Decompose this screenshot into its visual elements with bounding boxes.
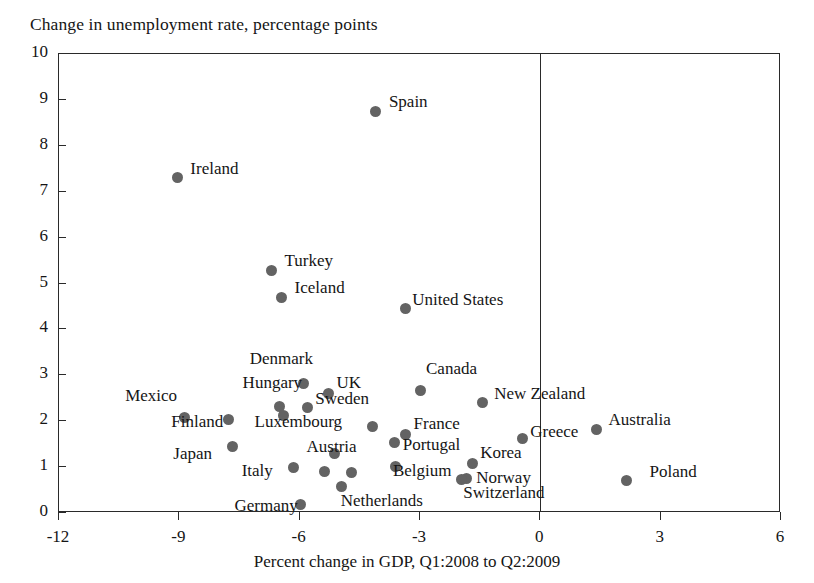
data-point-marker[interactable]	[346, 467, 357, 478]
data-point-marker[interactable]	[415, 385, 426, 396]
data-point-marker[interactable]	[276, 292, 287, 303]
data-point-label: Iceland	[295, 278, 345, 298]
data-point-label: Canada	[426, 359, 477, 379]
data-point-label: Korea	[480, 443, 522, 463]
y-axis-tick-mark	[58, 420, 66, 421]
data-point-marker[interactable]	[266, 265, 277, 276]
data-point-marker[interactable]	[591, 424, 602, 435]
data-point-marker[interactable]	[319, 466, 330, 477]
x-axis-tick-label: 3	[630, 527, 690, 547]
y-axis-tick-label: 10	[8, 42, 48, 62]
y-axis-tick-label: 2	[8, 409, 48, 429]
data-point-label: New Zealand	[494, 384, 585, 404]
data-point-marker[interactable]	[172, 172, 183, 183]
x-axis-tick-label: -3	[389, 527, 449, 547]
data-point-marker[interactable]	[477, 397, 488, 408]
data-point-label: Netherlands	[341, 491, 423, 511]
x-axis-tick-mark	[780, 512, 781, 520]
y-axis-tick-label: 8	[8, 134, 48, 154]
data-point-label: Poland	[650, 462, 697, 482]
x-axis-title: Percent change in GDP, Q1:2008 to Q2:200…	[0, 552, 814, 572]
data-point-marker[interactable]	[621, 475, 632, 486]
data-point-label: Mexico	[125, 386, 177, 406]
data-point-label: Luxembourg	[255, 412, 343, 432]
data-point-marker[interactable]	[367, 421, 378, 432]
y-axis-tick-label: 1	[8, 455, 48, 475]
data-point-label: Japan	[173, 444, 212, 464]
data-point-marker[interactable]	[223, 414, 234, 425]
data-point-label: Australia	[608, 410, 670, 430]
data-point-marker[interactable]	[227, 441, 238, 452]
data-point-label: Germany	[234, 496, 297, 516]
y-axis-tick-mark	[58, 512, 66, 513]
data-point-label: Portugal	[403, 435, 461, 455]
data-point-marker[interactable]	[370, 106, 381, 117]
y-axis-tick-label: 0	[8, 501, 48, 521]
y-axis-tick-mark	[58, 53, 66, 54]
y-axis-tick-mark	[58, 328, 66, 329]
data-point-label: United States	[412, 290, 503, 310]
x-axis-tick-mark	[58, 512, 59, 520]
data-point-label: Italy	[242, 461, 273, 481]
y-axis-tick-mark	[58, 374, 66, 375]
data-point-label: Austria	[307, 437, 357, 457]
data-point-marker[interactable]	[288, 462, 299, 473]
x-axis-tick-label: -9	[148, 527, 208, 547]
y-axis-tick-label: 9	[8, 88, 48, 108]
data-point-label: Ireland	[190, 159, 238, 179]
y-axis-tick-label: 7	[8, 180, 48, 200]
scatter-chart-figure: Change in unemployment rate, percentage …	[0, 0, 814, 583]
y-axis-tick-label: 5	[8, 272, 48, 292]
data-point-label: Spain	[389, 92, 428, 112]
y-axis-tick-label: 6	[8, 226, 48, 246]
x-axis-tick-label: 0	[509, 527, 569, 547]
data-point-marker[interactable]	[400, 303, 411, 314]
y-axis-tick-mark	[58, 466, 66, 467]
x-axis-tick-mark	[299, 512, 300, 520]
y-axis-tick-mark	[58, 237, 66, 238]
x-axis-tick-mark	[419, 512, 420, 520]
chart-title: Change in unemployment rate, percentage …	[30, 14, 378, 35]
y-axis-tick-mark	[58, 99, 66, 100]
data-point-label: France	[414, 414, 460, 434]
data-point-label: Finland	[171, 412, 223, 432]
x-axis-tick-mark	[178, 512, 179, 520]
data-point-label: Switzerland	[463, 483, 544, 503]
y-axis-tick-mark	[58, 145, 66, 146]
x-axis-tick-label: -12	[28, 527, 88, 547]
x-axis-tick-label: 6	[750, 527, 810, 547]
y-axis-tick-label: 3	[8, 363, 48, 383]
data-point-label: Greece	[530, 422, 578, 442]
y-axis-tick-mark	[58, 191, 66, 192]
data-point-marker[interactable]	[389, 437, 400, 448]
data-point-marker[interactable]	[517, 433, 528, 444]
data-point-label: Belgium	[393, 461, 452, 481]
y-axis-tick-mark	[58, 283, 66, 284]
data-point-label: Hungary	[243, 373, 302, 393]
x-axis-tick-mark	[539, 512, 540, 520]
y-axis-tick-label: 4	[8, 317, 48, 337]
zero-reference-line	[540, 54, 541, 511]
data-point-label: Denmark	[250, 349, 313, 369]
data-point-label: Turkey	[285, 251, 334, 271]
x-axis-tick-mark	[660, 512, 661, 520]
data-point-marker[interactable]	[336, 481, 347, 492]
data-point-label: Sweden	[315, 389, 369, 409]
x-axis-tick-label: -6	[269, 527, 329, 547]
